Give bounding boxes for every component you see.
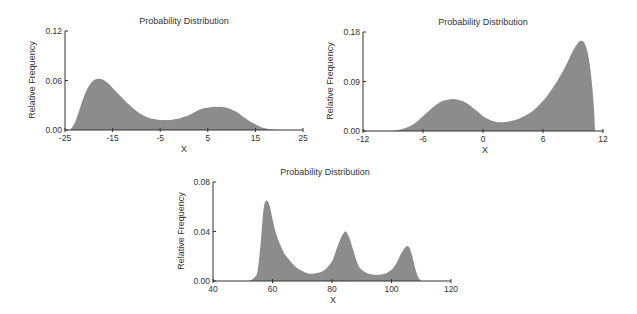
x-tick-label: -15	[106, 133, 119, 143]
x-tick-label: 15	[251, 133, 261, 143]
chart-title: Probability Distribution	[139, 16, 229, 26]
x-axis-label: X	[330, 295, 336, 305]
chart-panel-3: Probability Distribution 4060801001200.0…	[176, 167, 458, 305]
chart-title: Probability Distribution	[438, 17, 528, 27]
y-axis-label: Relative Frequency	[325, 42, 335, 120]
distribution-area	[249, 200, 422, 281]
y-tick-label: 0.18	[343, 27, 360, 37]
x-axis-label: X	[181, 144, 187, 154]
x-tick-label: 0	[481, 134, 486, 144]
distribution-area	[393, 41, 595, 131]
y-tick-label: 0.09	[343, 77, 360, 87]
distribution-area	[70, 79, 279, 130]
x-tick-label: 100	[384, 284, 398, 294]
chart-panel-2: Probability Distribution -12-606120.000.…	[325, 17, 608, 155]
x-tick-label: 25	[298, 133, 308, 143]
x-axis-label: X	[482, 145, 488, 155]
y-tick-label: 0.00	[343, 126, 360, 136]
chart-canvas: Probability Distribution -25-15-5515250.…	[0, 0, 637, 314]
y-tick-label: 0.00	[193, 276, 210, 286]
x-tick-label: 6	[541, 134, 546, 144]
x-tick-label: 12	[598, 134, 608, 144]
y-tick-label: 0.00	[45, 125, 62, 135]
x-tick-label: -6	[419, 134, 427, 144]
y-tick-label: 0.06	[45, 76, 62, 86]
x-tick-label: 60	[268, 284, 278, 294]
y-tick-label: 0.04	[193, 227, 210, 237]
x-tick-label: 80	[327, 284, 337, 294]
chart-panel-1: Probability Distribution -25-15-5515250.…	[27, 16, 308, 154]
x-tick-label: 5	[205, 133, 210, 143]
chart-title: Probability Distribution	[280, 167, 370, 177]
y-axis-label: Relative Frequency	[27, 41, 37, 119]
y-tick-label: 0.08	[193, 177, 210, 187]
y-tick-label: 0.12	[45, 26, 62, 36]
y-axis-label: Relative Frequency	[176, 192, 186, 270]
x-tick-label: 120	[444, 284, 458, 294]
x-tick-label: -5	[156, 133, 164, 143]
